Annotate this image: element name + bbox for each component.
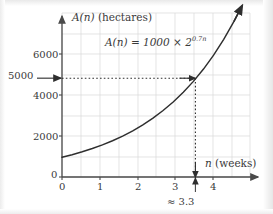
y-tick-label-4000: 4000 (33, 91, 58, 101)
y-axis-title-function: A(n) (72, 11, 95, 23)
curve-tip-arrow (204, 14, 229, 15)
formula-annotation: A(n) = 1000 × 20.7n (105, 36, 206, 47)
y-axis-title-unit: (hectares) (98, 11, 152, 23)
y-tick-label-5000: 5000 (8, 71, 33, 81)
x-axis-title-variable: n (205, 157, 212, 169)
curve-tip-arrowhead-icon (234, 6, 242, 22)
figure-container: A(n) (hectares) A(n) = 1000 × 20.7n n (w… (0, 0, 273, 214)
x-axis-title-unit: (weeks) (215, 157, 256, 169)
x-tick-label-2: 2 (135, 182, 141, 192)
solution-annotation-3p3: ≈ 3.3 (167, 197, 194, 207)
formula-times-icon: × (173, 36, 182, 48)
x-tick-label-0: 0 (59, 182, 65, 192)
x-axis-title: n (weeks) (205, 158, 256, 169)
x-tick-label-4: 4 (210, 182, 216, 192)
y-tick-label-0: 0 (51, 170, 57, 180)
y-tick-label-6000: 6000 (33, 50, 58, 60)
formula-left-side: A(n) = 1000 (105, 36, 173, 48)
x-tick-label-1: 1 (97, 182, 103, 192)
curve-exponential (62, 6, 242, 157)
formula-base: 2 (182, 36, 192, 48)
formula-exponent: 0.7n (192, 35, 207, 43)
x-tick-label-3: 3 (172, 182, 178, 192)
y-tick-label-2000: 2000 (33, 132, 58, 142)
y-axis-title: A(n) (hectares) (72, 12, 152, 23)
